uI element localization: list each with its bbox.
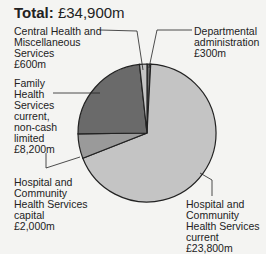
slice-fhs [78, 64, 147, 133]
label-hchs-capital: Hospital andCommunityHealth Servicescapi… [14, 177, 88, 232]
label-departmental: Departmentaladministration£300m [194, 26, 259, 59]
label-central: Central Health andMiscellaneousServices£… [14, 26, 102, 70]
label-hchs-current: Hospital andCommunityHealth Servicescurr… [186, 199, 260, 254]
label-fhs: FamilyHealthServicescurrent,non-cashlimi… [14, 78, 57, 155]
